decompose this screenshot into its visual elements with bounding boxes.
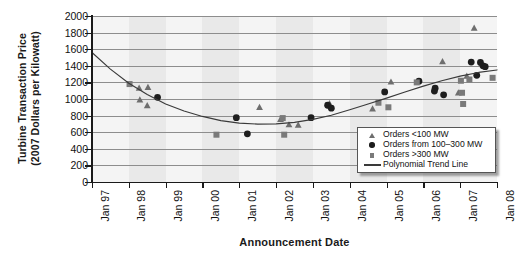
x-tick-label: Jan 07 xyxy=(467,190,480,236)
circle-marker-glyph xyxy=(369,142,374,147)
data-point-square xyxy=(281,132,287,138)
y-tick-label: 1200 xyxy=(54,77,88,88)
data-point-circle xyxy=(233,114,240,121)
data-point-square xyxy=(280,115,286,121)
x-tick-mark xyxy=(166,182,167,188)
data-point-triangle xyxy=(388,78,395,84)
y-tick-label: 1000 xyxy=(54,94,88,105)
y-tick-mark xyxy=(85,149,92,150)
data-point-square xyxy=(460,101,466,107)
triangle-marker-glyph xyxy=(369,133,375,138)
data-point-square xyxy=(490,75,496,81)
data-point-circle xyxy=(468,59,475,66)
data-point-square xyxy=(385,104,391,110)
x-tick-mark xyxy=(497,182,498,188)
line-marker-icon xyxy=(361,164,383,165)
y-tick-label: 0 xyxy=(54,177,88,188)
square-marker-icon xyxy=(361,153,383,158)
data-point-square xyxy=(213,132,219,138)
y-tick-label: 200 xyxy=(54,160,88,171)
data-point-circle xyxy=(482,63,489,70)
x-axis-title: Announcement Date xyxy=(92,236,497,248)
y-tick-mark xyxy=(85,132,92,133)
data-point-circle xyxy=(328,105,335,112)
data-point-square xyxy=(466,76,472,82)
x-tick-label: Jan 97 xyxy=(99,190,112,236)
y-tick-mark xyxy=(85,16,92,17)
y-tick-mark xyxy=(85,66,92,67)
x-tick-label: Jan 04 xyxy=(356,190,369,236)
y-tick-label: 600 xyxy=(54,127,88,138)
data-point-circle xyxy=(431,88,438,95)
x-tick-mark xyxy=(239,182,240,188)
data-point-triangle xyxy=(145,84,152,90)
data-point-circle xyxy=(244,130,251,137)
y-tick-label: 2000 xyxy=(54,11,88,22)
x-tick-mark xyxy=(387,182,388,188)
y-tick-mark xyxy=(85,165,92,166)
x-tick-mark xyxy=(202,182,203,188)
data-point-triangle xyxy=(369,105,376,111)
data-point-circle xyxy=(381,89,388,96)
y-tick-mark xyxy=(85,82,92,83)
x-tick-label: Jan 00 xyxy=(209,190,222,236)
data-point-triangle xyxy=(144,102,151,108)
y-tick-label: 1400 xyxy=(54,61,88,72)
y-tick-mark xyxy=(85,99,92,100)
square-marker-glyph xyxy=(370,153,375,158)
x-tick-label: Jan 01 xyxy=(246,190,259,236)
legend-item[interactable]: Polynomial Trend Line xyxy=(361,160,492,170)
x-tick-mark xyxy=(92,182,93,188)
data-point-square xyxy=(459,90,465,96)
x-tick-label: Jan 05 xyxy=(393,190,406,236)
series-circle xyxy=(154,59,488,138)
circle-marker-icon xyxy=(361,142,383,147)
data-point-triangle xyxy=(136,96,143,102)
x-axis-line xyxy=(91,182,498,184)
legend-item-label: Polynomial Trend Line xyxy=(383,160,468,170)
y-tick-mark xyxy=(85,49,92,50)
data-point-square xyxy=(458,78,464,84)
data-point-triangle xyxy=(439,58,446,64)
x-tick-label: Jan 03 xyxy=(319,190,332,236)
x-tick-label: Jan 02 xyxy=(283,190,296,236)
x-tick-label: Jan 99 xyxy=(172,190,185,236)
data-point-circle xyxy=(440,91,447,98)
y-tick-label: 400 xyxy=(54,144,88,155)
y-tick-mark xyxy=(85,182,92,183)
data-point-triangle xyxy=(256,104,263,110)
y-axis-title-line-2: (2007 Dollars per Kilowatt) xyxy=(28,31,41,166)
x-tick-label: Jan 98 xyxy=(135,190,148,236)
line-marker-glyph xyxy=(364,164,381,165)
y-tick-label: 1800 xyxy=(54,28,88,39)
x-tick-mark xyxy=(350,182,351,188)
y-tick-label: 800 xyxy=(54,111,88,122)
x-tick-mark xyxy=(129,182,130,188)
data-point-triangle xyxy=(471,24,478,30)
y-tick-label: 1600 xyxy=(54,44,88,55)
x-tick-mark xyxy=(460,182,461,188)
chart-figure: Turbine Transaction Price (2007 Dollars … xyxy=(0,0,527,258)
x-tick-label: Jan 08 xyxy=(504,190,517,236)
y-tick-mark xyxy=(85,33,92,34)
y-axis-title: Turbine Transaction Price (2007 Dollars … xyxy=(0,0,56,196)
chart-legend: Orders <100 MWOrders from 100–300 MWOrde… xyxy=(357,127,496,173)
data-point-triangle xyxy=(286,121,293,127)
y-axis-tick-labels: 2000180016001400120010008006004002000 xyxy=(52,0,88,196)
x-tick-label: Jan 06 xyxy=(430,190,443,236)
x-tick-mark xyxy=(423,182,424,188)
triangle-marker-icon xyxy=(361,133,383,138)
x-tick-mark xyxy=(276,182,277,188)
data-point-square xyxy=(414,79,420,85)
x-tick-mark xyxy=(313,182,314,188)
y-axis-title-line-1: Turbine Transaction Price xyxy=(16,31,29,166)
y-tick-mark xyxy=(85,116,92,117)
